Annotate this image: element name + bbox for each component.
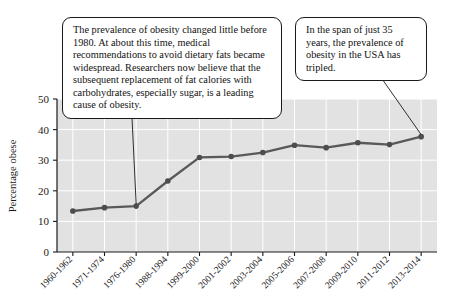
data-point xyxy=(165,178,171,184)
data-point xyxy=(70,208,76,214)
x-tick-label: 2005-2006 xyxy=(260,254,296,290)
obesity-line-chart: 01020304050 Percentage obese 1960-196219… xyxy=(0,0,450,306)
data-point xyxy=(197,155,203,161)
x-tick-label: 1999-2000 xyxy=(165,254,201,290)
y-tick-label: 40 xyxy=(38,124,50,136)
data-point xyxy=(292,142,298,148)
x-tick-label: 2009-2010 xyxy=(323,254,359,290)
x-axis-tick-labels: 1960-19621971-19741976-19801988-19941999… xyxy=(38,254,423,290)
tripled-callout: In the span of just 35 years, the preval… xyxy=(295,17,427,81)
x-tick-label: 2001-2002 xyxy=(196,254,232,290)
x-tick-label: 1960-1962 xyxy=(38,254,74,290)
x-tick-label: 1976-1980 xyxy=(101,254,137,290)
y-tick-label: 0 xyxy=(44,246,50,258)
x-tick-label: 1988-1994 xyxy=(133,254,169,290)
y-tick-label: 10 xyxy=(38,215,50,227)
x-tick-label: 2013-2014 xyxy=(386,254,422,290)
data-point xyxy=(418,134,424,140)
data-point xyxy=(355,140,361,146)
x-tick-label: 1971-1974 xyxy=(70,254,106,290)
x-axis-ticks xyxy=(73,252,421,256)
y-tick-label: 30 xyxy=(38,154,50,166)
obesity-history-callout: The prevalence of obesity changed little… xyxy=(62,17,282,119)
x-tick-label: 2003-2004 xyxy=(228,254,264,290)
y-axis-title: Percentage obese xyxy=(7,139,18,212)
callout-2-text: In the span of just 35 years, the preval… xyxy=(306,24,417,74)
callout-1-text: The prevalence of obesity changed little… xyxy=(73,24,272,112)
plot-area-background xyxy=(57,99,437,252)
data-point xyxy=(102,205,108,211)
y-tick-label: 20 xyxy=(38,185,50,197)
data-point xyxy=(133,203,139,209)
y-axis-ticks: 01020304050 xyxy=(38,93,57,258)
data-point xyxy=(260,150,266,156)
x-tick-label: 2011-2012 xyxy=(355,254,391,290)
x-tick-label: 2007-2008 xyxy=(291,254,327,290)
data-point xyxy=(323,145,329,151)
data-point xyxy=(228,154,234,160)
data-point xyxy=(387,142,393,148)
y-tick-label: 50 xyxy=(38,93,50,105)
